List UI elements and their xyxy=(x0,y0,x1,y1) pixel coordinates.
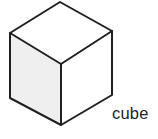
shape-caption-label: cube xyxy=(112,103,158,125)
figure-root: cube xyxy=(0,0,158,139)
